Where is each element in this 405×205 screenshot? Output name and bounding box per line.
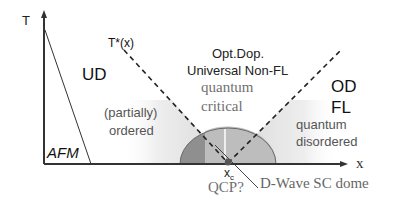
partially-ordered-label-2: ordered	[109, 124, 154, 137]
dome-label: D-Wave SC dome	[260, 176, 369, 191]
qcp-point	[225, 159, 232, 166]
partially-ordered-label-1: (partially)	[104, 106, 157, 119]
phase-diagram: T x AFM UD (partially) ordered T*(x) Opt…	[0, 0, 405, 205]
y-axis-label: T	[22, 14, 30, 27]
fl-label: FL	[331, 99, 351, 116]
afm-label: AFM	[47, 145, 79, 160]
quantum-disordered-label-2: disordered	[296, 135, 357, 148]
od-label: OD	[331, 78, 357, 95]
qcp-label: QCP?	[208, 180, 244, 195]
ud-label: UD	[82, 66, 107, 83]
quantum-critical-label-1: quantum	[201, 80, 254, 95]
x-axis-arrow-icon	[340, 161, 348, 167]
t-star-label: T*(x)	[108, 37, 134, 49]
opt-dop-label-1: Opt.Dop.	[212, 47, 264, 60]
x-axis-label: x	[356, 156, 364, 171]
y-axis-arrow-icon	[41, 10, 47, 18]
quantum-disordered-label-1: quantum	[296, 118, 347, 131]
quantum-critical-label-2: critical	[201, 99, 243, 114]
opt-dop-label-2: Universal Non-FL	[187, 64, 288, 77]
